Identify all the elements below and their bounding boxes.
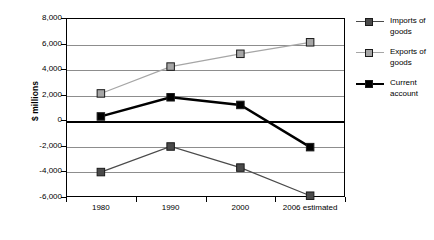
series-line <box>101 42 310 93</box>
series-current-account <box>97 94 314 151</box>
legend-swatch-icon <box>356 48 384 58</box>
legend-label: Exports of goods <box>390 47 434 68</box>
data-point-marker <box>237 50 245 58</box>
chart-legend: Imports of goodsExports of goodsCurrent … <box>356 16 434 109</box>
legend-marker-icon <box>365 18 373 26</box>
data-point-marker <box>237 164 245 172</box>
legend-item[interactable]: Imports of goods <box>356 16 434 38</box>
data-point-marker <box>97 90 105 98</box>
legend-marker-icon <box>365 49 373 57</box>
series-exports-of-goods <box>97 39 314 98</box>
data-point-marker <box>306 39 314 47</box>
data-point-marker <box>167 94 175 102</box>
legend-marker-icon <box>365 80 373 88</box>
legend-label: Current account <box>390 78 434 99</box>
chart-container: $ millions 8,0006,0004,0002,0000-2,000-4… <box>0 0 434 240</box>
data-point-marker <box>167 143 175 151</box>
legend-swatch-icon <box>356 79 384 89</box>
data-point-marker <box>306 192 314 200</box>
data-point-marker <box>97 168 105 176</box>
legend-label: Imports of goods <box>390 16 434 37</box>
series-line <box>101 97 310 147</box>
series-imports-of-goods <box>97 143 314 200</box>
data-point-marker <box>306 143 314 151</box>
data-point-marker <box>237 101 245 109</box>
data-point-marker <box>167 63 175 70</box>
series-line <box>101 146 310 195</box>
legend-swatch-icon <box>356 17 384 27</box>
legend-item[interactable]: Current account <box>356 78 434 100</box>
data-point-marker <box>97 113 105 121</box>
legend-item[interactable]: Exports of goods <box>356 47 434 69</box>
